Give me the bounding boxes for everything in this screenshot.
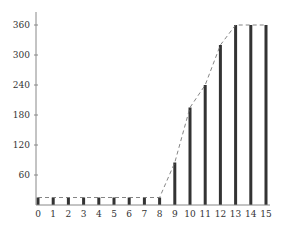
x-tick-label: 15 <box>260 209 272 219</box>
x-tick-label: 7 <box>142 209 148 219</box>
x-tick-label: 8 <box>157 209 163 219</box>
x-tick-label: 12 <box>215 209 226 219</box>
x-tick-label: 9 <box>172 209 178 219</box>
x-tick-label: 5 <box>111 209 117 219</box>
bar-9 <box>173 163 176 206</box>
x-axis-ticks: 0123456789101112131415 <box>35 209 272 219</box>
x-tick-label: 0 <box>35 209 41 219</box>
bar-8 <box>158 198 161 206</box>
bar-11 <box>204 85 207 205</box>
bars-group <box>37 25 268 205</box>
y-axis-ticks: 60120180240300360 <box>13 20 38 180</box>
y-tick-label: 180 <box>13 110 30 120</box>
bar-12 <box>219 45 222 205</box>
x-tick-label: 11 <box>199 209 210 219</box>
bar-1 <box>52 198 55 206</box>
x-tick-label: 14 <box>245 209 257 219</box>
bar-6 <box>128 198 131 206</box>
x-tick-label: 4 <box>96 209 102 219</box>
x-tick-label: 6 <box>126 209 132 219</box>
x-tick-label: 1 <box>50 209 56 219</box>
y-tick-label: 240 <box>13 80 30 90</box>
x-tick-label: 13 <box>230 209 242 219</box>
bar-7 <box>143 198 146 206</box>
bar-5 <box>113 198 116 206</box>
bar-13 <box>234 25 237 205</box>
y-tick-label: 300 <box>13 50 30 60</box>
x-tick-label: 10 <box>184 209 196 219</box>
bar-2 <box>67 198 70 206</box>
y-tick-label: 360 <box>13 20 30 30</box>
y-tick-label: 120 <box>13 140 30 150</box>
x-tick-label: 3 <box>81 209 87 219</box>
bar-10 <box>189 108 192 206</box>
bar-3 <box>82 198 85 206</box>
x-tick-label: 2 <box>66 209 72 219</box>
bar-14 <box>249 25 252 205</box>
bar-chart: 60120180240300360 0123456789101112131415 <box>0 0 285 232</box>
dashed-envelope-line <box>38 25 266 198</box>
bar-15 <box>265 25 268 205</box>
y-tick-label: 60 <box>19 170 31 180</box>
bar-4 <box>97 198 100 206</box>
bar-0 <box>37 198 40 206</box>
